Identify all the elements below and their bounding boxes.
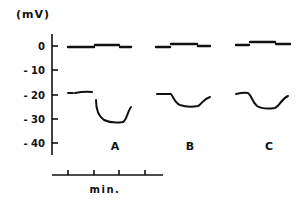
y-tick-minus-30: - 30 [23, 114, 45, 125]
trace-a-upper [68, 45, 131, 47]
y-tick-labels: 0 - 10 - 20 - 30 - 40 [23, 41, 45, 149]
y-axis [52, 34, 58, 155]
membrane-potential-chart: (mV) 0 - 10 - 20 - 30 - 40 [0, 0, 305, 201]
y-tick-0: 0 [38, 41, 45, 52]
trace-a [68, 45, 131, 123]
y-axis-unit-label: (mV) [16, 8, 50, 21]
trace-b-lower [157, 94, 210, 107]
panel-label-a: A [111, 140, 120, 153]
trace-b [156, 44, 210, 107]
trace-b-upper [156, 44, 210, 47]
trace-a-lower [68, 92, 131, 123]
time-scale-bar [52, 170, 163, 175]
trace-c-upper [236, 42, 290, 45]
x-axis-unit-label: min. [90, 184, 121, 195]
trace-c-lower [236, 93, 288, 109]
y-tick-minus-20: - 20 [23, 90, 45, 101]
y-tick-minus-40: - 40 [23, 138, 45, 149]
panel-label-c: C [265, 140, 273, 153]
panel-labels: A B C [111, 140, 273, 153]
y-tick-minus-10: - 10 [23, 65, 45, 76]
trace-c [236, 42, 290, 109]
panel-label-b: B [186, 140, 194, 153]
